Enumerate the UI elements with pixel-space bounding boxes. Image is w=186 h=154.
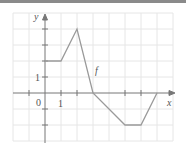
y-tick-label: 1 [35,72,40,83]
function-label: f [95,65,99,76]
x-axis-label: x [166,97,172,108]
function-graph: y x f 0 1 1 [0,0,186,154]
x-tick-label: 1 [58,98,63,109]
origin-label: 0 [36,97,41,108]
y-axis-label: y [33,11,39,22]
